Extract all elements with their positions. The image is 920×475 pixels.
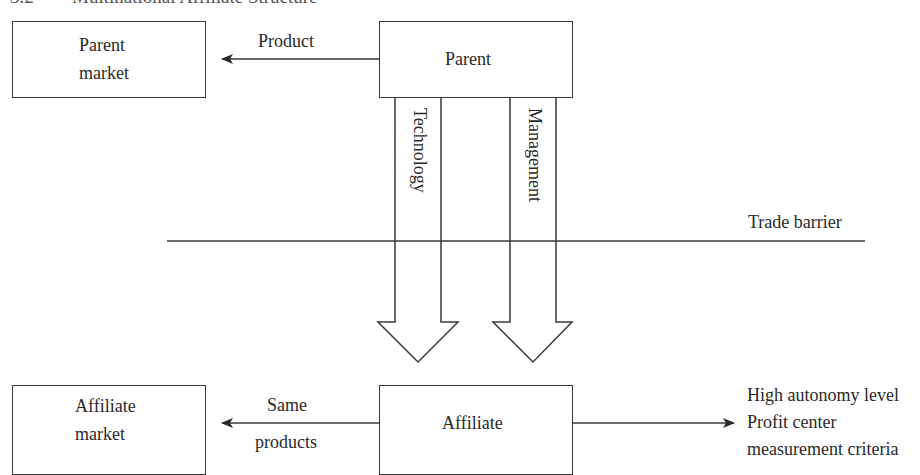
parent-market-label: Parent market [79,31,129,87]
affiliate-label: Affiliate [442,409,503,437]
outcome-item: High autonomy level [747,382,899,409]
product-label: Product [258,31,314,52]
outcome-item: Profit center [747,409,899,436]
trade-barrier-label: Trade barrier [748,212,842,233]
same-products-top-label: Same [267,395,307,416]
management-label: Management [524,108,545,202]
parent-label: Parent [445,45,491,73]
affiliate-market-label: Affiliate market [75,392,136,448]
outcome-item: measurement criteria [747,436,899,463]
same-products-bottom-label: products [255,432,317,453]
outcomes-list: High autonomy level Profit center measur… [747,382,899,463]
technology-label: Technology [409,108,430,193]
